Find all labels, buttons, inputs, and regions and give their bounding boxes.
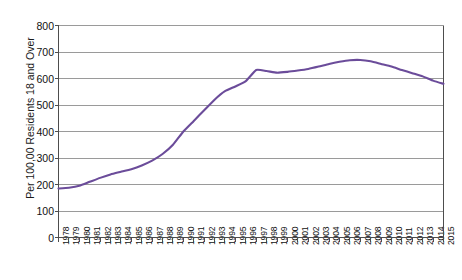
line-chart: Per 100,00 Residents 18 and Over 8007006… (0, 0, 462, 280)
gridlines (59, 26, 444, 238)
plot-area (0, 0, 462, 280)
series-line-path (59, 60, 444, 189)
x-axis-tick-marks (59, 238, 444, 242)
y-axis-tick-marks (55, 26, 59, 238)
